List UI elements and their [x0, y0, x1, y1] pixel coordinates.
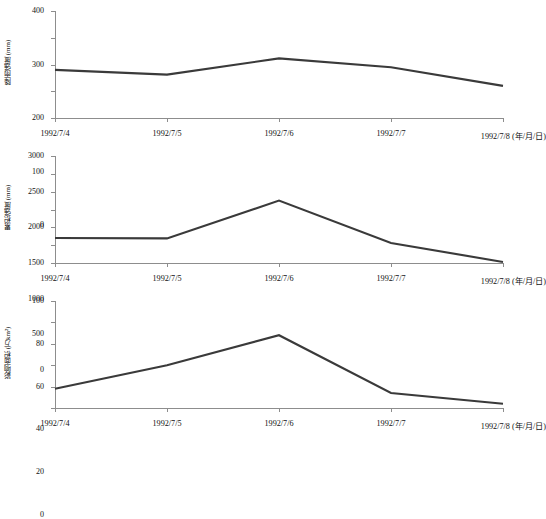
series-path — [55, 201, 503, 262]
x-axis-tick-label: 1992/7/8 (年/月/日) — [481, 274, 546, 286]
x-axis-tick — [391, 118, 392, 122]
x-axis-tick-label: 1992/7/7 — [376, 419, 405, 428]
series-path — [55, 58, 503, 86]
x-axis-tick — [503, 408, 504, 412]
y-axis-tick-label: 400 — [32, 6, 44, 15]
x-axis-tick — [503, 118, 504, 122]
series-line — [55, 156, 503, 263]
chart-panel-accumulated-intensity: 累积强度 (mm) 0500100015002000250030001992/7… — [0, 145, 540, 290]
x-axis-tick-label: 1992/7/7 — [376, 129, 405, 138]
y-axis-tick-label: 2000 — [28, 223, 44, 232]
chart-panel-rainfall-intensity: 降雨强度 (mm) 01002003004001992/7/41992/7/51… — [0, 0, 540, 145]
x-axis-tick-label: 1992/7/4 — [40, 274, 69, 283]
y-axis-title: 降雨强度 (mm) — [2, 10, 16, 115]
y-axis-tick-label: 300 — [32, 60, 44, 69]
x-axis-tick — [167, 408, 168, 412]
y-axis-title: 累积强度 (mm) — [2, 155, 16, 260]
series-line — [55, 301, 503, 408]
x-axis-tick — [167, 263, 168, 267]
plot-area: 0204060801001992/7/41992/7/51992/7/61992… — [55, 301, 503, 408]
series-path — [55, 335, 503, 403]
y-axis-tick-label: 0 — [40, 510, 44, 519]
x-axis-tick — [391, 263, 392, 267]
x-axis-tick-label: 1992/7/4 — [40, 419, 69, 428]
x-axis-tick — [55, 118, 56, 122]
x-axis-tick-label: 1992/7/8 (年/月/日) — [481, 129, 546, 141]
x-axis-tick — [279, 263, 280, 267]
x-axis-tick-label: 1992/7/8 (年/月/日) — [481, 419, 546, 431]
y-axis-tick-label: 3000 — [28, 151, 44, 160]
x-axis-tick-label: 1992/7/6 — [264, 274, 293, 283]
y-axis-tick-label: 2500 — [28, 187, 44, 196]
x-axis-tick-label: 1992/7/5 — [152, 419, 181, 428]
x-axis-tick-label: 1992/7/6 — [264, 419, 293, 428]
chart-panel-affected-area: 影响面积 (万km²) 0204060801001992/7/41992/7/5… — [0, 290, 540, 435]
x-axis-tick — [279, 118, 280, 122]
y-axis-title: 影响面积 (万km²) — [2, 300, 16, 405]
plot-area: 0500100015002000250030001992/7/41992/7/5… — [55, 156, 503, 263]
x-axis-tick — [503, 263, 504, 267]
x-axis-tick-label: 1992/7/7 — [376, 274, 405, 283]
y-axis-tick-label: 60 — [36, 382, 44, 391]
x-axis-tick — [55, 263, 56, 267]
x-axis-tick — [55, 408, 56, 412]
x-axis-tick — [167, 118, 168, 122]
y-axis-tick-label: 20 — [36, 468, 44, 477]
x-axis-tick — [279, 408, 280, 412]
x-axis-tick — [391, 408, 392, 412]
series-line — [55, 11, 503, 118]
y-axis-tick-label: 200 — [32, 113, 44, 122]
y-axis-tick-label: 1500 — [28, 258, 44, 267]
y-axis-tick-label: 80 — [36, 339, 44, 348]
x-axis-tick-label: 1992/7/6 — [264, 129, 293, 138]
y-axis-tick-label: 100 — [32, 296, 44, 305]
x-axis-tick-label: 1992/7/5 — [152, 274, 181, 283]
x-axis-tick-label: 1992/7/5 — [152, 129, 181, 138]
plot-area: 01002003004001992/7/41992/7/51992/7/6199… — [55, 11, 503, 118]
x-axis-tick-label: 1992/7/4 — [40, 129, 69, 138]
